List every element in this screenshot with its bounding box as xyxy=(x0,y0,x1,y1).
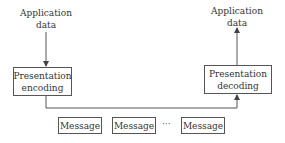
ellipsis: ··· xyxy=(162,119,171,129)
message-box-3: Message xyxy=(181,117,225,134)
sender-input-label: Application data xyxy=(16,7,76,31)
presentation-decoding-box: Presentation decoding xyxy=(204,65,272,94)
receiver-output-label: Application data xyxy=(207,5,267,29)
presentation-encoding-box: Presentation encoding xyxy=(13,67,72,96)
transport-path xyxy=(46,95,237,108)
message-box-1: Message xyxy=(58,117,102,134)
message-box-2: Message xyxy=(112,117,156,134)
